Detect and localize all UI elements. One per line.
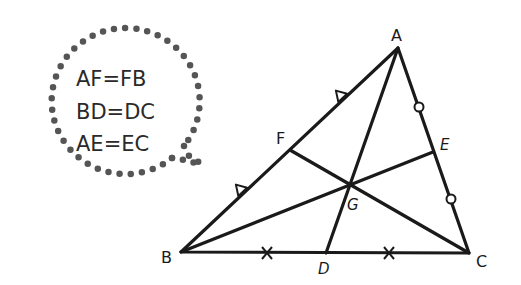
equation-af-fb: AF=FB: [76, 67, 147, 91]
triangle-outline: [181, 48, 469, 253]
label-c: C: [476, 252, 487, 271]
label-d: D: [318, 260, 330, 278]
circle-marker-ae: [415, 103, 424, 112]
label-b: B: [161, 248, 172, 267]
median-a-d: [326, 48, 398, 253]
centroid-diagram: AF=FB BD=DC AE=EC A B C: [0, 0, 521, 285]
equation-ae-ec: AE=EC: [76, 132, 149, 156]
label-g: G: [347, 196, 359, 214]
label-f: F: [276, 129, 285, 148]
triangle-abc: [181, 48, 469, 253]
label-e: E: [440, 136, 450, 154]
label-a: A: [391, 26, 402, 45]
circle-marker-ec: [447, 195, 456, 204]
bubble-tail: [172, 146, 205, 166]
median-b-e: [181, 152, 433, 252]
speech-bubble: AF=FB BD=DC AE=EC: [52, 28, 205, 174]
equation-bd-dc: BD=DC: [76, 100, 155, 124]
median-c-f: [290, 150, 469, 253]
